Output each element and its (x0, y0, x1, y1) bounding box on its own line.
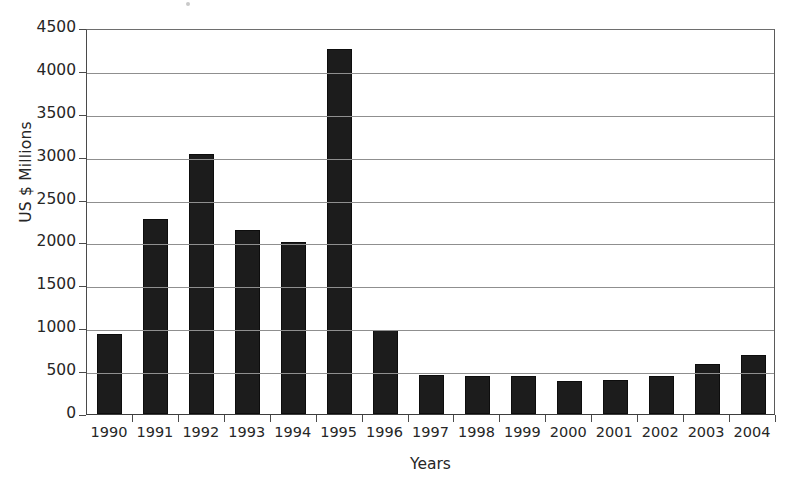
bar-1994 (281, 242, 306, 414)
bar-1990 (97, 334, 122, 414)
gridline-1000 (87, 330, 774, 331)
y-tick-label-2000: 2000 (14, 234, 76, 250)
bar-1995 (327, 49, 352, 414)
y-tick-label-500: 500 (14, 363, 76, 379)
x-axis-title: Years (371, 455, 491, 473)
bar-1999 (511, 376, 536, 414)
gridline-3000 (87, 159, 774, 160)
bar-1993 (235, 230, 260, 414)
x-tick-mark-5 (362, 415, 363, 422)
x-tick-mark-6 (408, 415, 409, 422)
bar-1997 (419, 375, 444, 414)
bar-1998 (465, 376, 490, 414)
y-tick-mark-2500 (79, 201, 86, 202)
y-tick-label-4500: 4500 (14, 20, 76, 36)
y-tick-mark-4500 (79, 29, 86, 30)
x-tick-label-2004: 2004 (725, 424, 779, 440)
bar-chart: US $ Millions 05001000150020002500300035… (0, 0, 797, 485)
bar-2004 (741, 355, 766, 414)
x-tick-mark-11 (637, 415, 638, 422)
y-tick-mark-3000 (79, 158, 86, 159)
scan-artifact-speck (186, 2, 190, 6)
bar-1996 (373, 330, 398, 414)
bar-2002 (649, 376, 674, 414)
y-tick-mark-4000 (79, 72, 86, 73)
x-tick-mark-10 (591, 415, 592, 422)
y-tick-label-4000: 4000 (14, 63, 76, 79)
gridline-1500 (87, 287, 774, 288)
bar-2003 (695, 364, 720, 414)
y-tick-mark-2000 (79, 243, 86, 244)
y-tick-mark-1000 (79, 329, 86, 330)
x-tick-mark-4 (316, 415, 317, 422)
y-tick-label-1500: 1500 (14, 277, 76, 293)
x-tick-mark-12 (683, 415, 684, 422)
y-tick-label-3000: 3000 (14, 149, 76, 165)
y-tick-mark-3500 (79, 115, 86, 116)
bar-2000 (557, 381, 582, 414)
bar-1992 (189, 154, 214, 414)
y-axis-title: US $ Millions (17, 102, 35, 242)
x-tick-mark-13 (729, 415, 730, 422)
gridline-4000 (87, 73, 774, 74)
plot-area (86, 29, 775, 415)
x-tick-mark-0 (132, 415, 133, 422)
y-tick-label-1000: 1000 (14, 320, 76, 336)
x-tick-mark-7 (453, 415, 454, 422)
gridline-2000 (87, 244, 774, 245)
gridline-500 (87, 373, 774, 374)
x-tick-mark-2 (224, 415, 225, 422)
x-tick-mark-8 (499, 415, 500, 422)
bar-2001 (603, 380, 628, 414)
gridline-2500 (87, 202, 774, 203)
x-tick-mark-14 (775, 415, 776, 422)
x-tick-mark-1 (178, 415, 179, 422)
y-tick-label-3500: 3500 (14, 106, 76, 122)
bar-series (87, 30, 774, 414)
y-tick-mark-0 (79, 415, 86, 416)
y-tick-label-0: 0 (14, 406, 76, 422)
bar-1991 (143, 219, 168, 414)
gridline-3500 (87, 116, 774, 117)
y-tick-mark-500 (79, 372, 86, 373)
y-tick-mark-1500 (79, 286, 86, 287)
x-tick-mark-3 (270, 415, 271, 422)
y-tick-label-2500: 2500 (14, 192, 76, 208)
x-tick-mark-9 (545, 415, 546, 422)
